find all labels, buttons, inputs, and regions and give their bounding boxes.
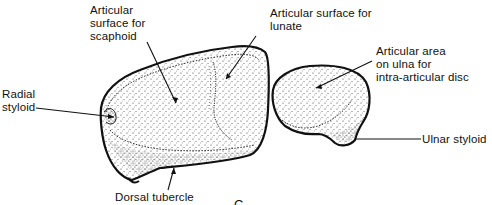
- label-line: intra-articular disc: [376, 71, 469, 83]
- label-line: lunate: [270, 20, 302, 32]
- bone-illustration: [0, 0, 492, 205]
- figure-letter: C: [234, 198, 243, 205]
- label-line: Articular area: [376, 45, 446, 57]
- label-line: Ulnar styloid: [422, 133, 487, 145]
- label-articular-surface-lunate: Articular surface forlunate: [270, 7, 372, 33]
- label-line: scaphoid: [90, 30, 137, 42]
- radius-shape: [101, 46, 269, 182]
- ulna-shape: [273, 66, 370, 146]
- label-articular-surface-scaphoid: Articularsurface forscaphoid: [90, 4, 145, 43]
- label-articular-area-ulna: Articular areaon ulna forintra-articular…: [376, 45, 469, 84]
- label-line: Dorsal tubercle: [115, 191, 194, 203]
- label-dorsal-tubercle: Dorsal tubercle: [115, 191, 194, 204]
- label-line: surface for: [90, 17, 145, 29]
- label-line: styloid: [2, 101, 35, 113]
- label-line: on ulna for: [376, 58, 431, 70]
- label-ulnar-styloid: Ulnar styloid: [422, 133, 487, 146]
- label-line: Radial: [2, 88, 35, 100]
- label-line: Articular: [90, 4, 133, 16]
- label-line: Articular surface for: [270, 7, 372, 19]
- label-radial-styloid: Radialstyloid: [2, 88, 35, 114]
- anatomy-diagram: Articularsurface forscaphoid Articular s…: [0, 0, 492, 205]
